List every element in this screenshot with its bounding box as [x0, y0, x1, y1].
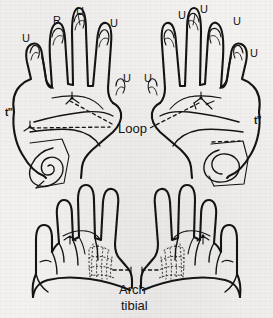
label-left-thumb-pattern: U — [22, 33, 30, 44]
label-right-axial-triradius: t" — [254, 116, 261, 126]
label-arch: Arch — [119, 283, 146, 296]
label-left-axial-triradius: t" — [5, 108, 12, 118]
label-left-little-pattern: U — [123, 73, 131, 84]
label-right-ring-pattern: U — [250, 48, 258, 59]
label-left-index-pattern: R — [53, 15, 61, 26]
right-palm-triradii — [194, 92, 214, 109]
label-right-index-pattern: U — [200, 4, 208, 15]
arch-tibial-pointer — [113, 267, 160, 275]
right-sole-arch-stipple — [159, 244, 184, 279]
line-drawing: .s{fill:none;stroke:#141414;stroke-linec… — [0, 0, 273, 318]
label-left-ring-pattern: U — [110, 18, 118, 29]
right-atd-dashed-lines — [150, 103, 199, 128]
label-tibial: tibial — [121, 299, 148, 312]
label-right-middle-pattern: U — [233, 16, 241, 27]
label-left-middle-pattern: U — [76, 6, 84, 17]
left-hypothenar-whorl — [30, 139, 69, 188]
label-right-thumb-pattern: U — [178, 10, 186, 21]
dermatoglyphics-figure: .s{fill:none;stroke:#141414;stroke-linec… — [0, 0, 273, 318]
label-loop: Loop — [118, 122, 147, 135]
right-hand-drawing — [148, 8, 260, 186]
right-foot-drawing — [141, 185, 240, 297]
right-hypothenar-loop — [204, 141, 248, 186]
feet-drawing — [33, 185, 241, 297]
left-foot-drawing — [33, 185, 132, 297]
left-sole-arch-stipple — [89, 244, 114, 279]
label-right-little-pattern: U — [144, 73, 152, 84]
